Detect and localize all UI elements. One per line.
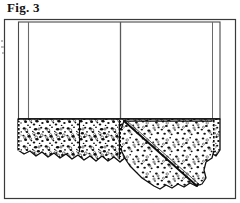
right-edge-hatch — [213, 120, 216, 151]
draped-lace-flap — [118, 120, 218, 190]
fabric-panel — [19, 22, 221, 119]
technical-drawing — [0, 0, 240, 203]
left-edge-hatch — [18, 121, 21, 151]
figure-page: Fig. 3 — [0, 0, 240, 203]
